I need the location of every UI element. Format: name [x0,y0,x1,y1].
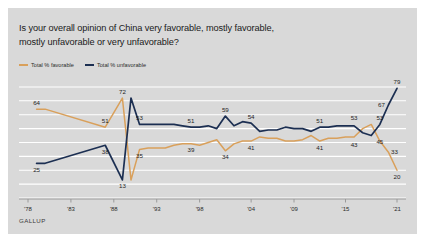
axis-tick-label: '04 [247,206,255,212]
axis-tick-label: '83 [67,206,75,212]
data-point-label: 53 [136,114,143,121]
data-point-label: 64 [33,99,40,106]
data-point-label: 51 [102,117,109,124]
axis-tick-label: '98 [196,206,204,212]
data-point-label: 45 [376,138,383,145]
data-point-label: 43 [351,141,358,148]
data-point-label: 67 [378,101,385,108]
data-point-label: 54 [248,113,255,120]
series-line-unfavorable [37,88,397,180]
data-point-label: 53 [351,114,358,121]
chart-legend: Total % favorable Total % unfavorable [19,62,146,68]
legend-label-favorable: Total % favorable [31,62,74,68]
x-axis-svg: '78'83'88'93'98'04'09'15'21 [19,198,406,216]
chart-title-line-2: mostly unfavorable or very unfavorable? [19,36,359,50]
chart-plot-area: 6451723539344141434533202538135351595451… [19,80,406,198]
data-point-label: 41 [248,144,255,151]
data-point-label: 41 [316,144,323,151]
data-point-label: 34 [222,153,229,160]
chart-x-axis: '78'83'88'93'98'04'09'15'21 [19,198,406,216]
data-point-label: 20 [394,173,401,180]
chart-title: Is your overall opinion of China very fa… [19,22,359,49]
axis-tick-label: '93 [153,206,161,212]
legend-swatch-unfavorable-icon [85,64,94,66]
line-chart-svg: 6451723539344141434533202538135351595451… [19,80,406,198]
legend-label-unfavorable: Total % unfavorable [97,62,146,68]
data-point-label: 33 [391,148,398,155]
axis-tick-label: '78 [24,206,32,212]
data-point-label: 35 [136,152,143,159]
chart-card: Is your overall opinion of China very fa… [8,8,417,234]
legend-swatch-favorable-icon [19,64,28,66]
data-point-label: 51 [188,117,195,124]
chart-title-line-1: Is your overall opinion of China very fa… [19,22,359,36]
axis-tick-label: '21 [393,206,401,212]
axis-tick-label: '15 [342,206,350,212]
axis-tick-label: '09 [290,206,298,212]
data-point-label: 53 [376,114,383,121]
data-point-label: 79 [394,78,401,85]
data-point-label: 51 [316,117,323,124]
data-point-label: 25 [33,166,40,173]
data-point-label: 38 [102,148,109,155]
data-point-label: 39 [188,146,195,153]
axis-tick-label: '88 [110,206,118,212]
legend-item-favorable[interactable]: Total % favorable [19,62,74,68]
gallup-brand-label: GALLUP [19,217,46,224]
data-point-label: 59 [222,106,229,113]
legend-item-unfavorable[interactable]: Total % unfavorable [85,62,146,68]
data-point-label: 72 [119,88,126,95]
series-line-favorable [37,98,397,180]
data-point-label: 13 [119,182,126,189]
